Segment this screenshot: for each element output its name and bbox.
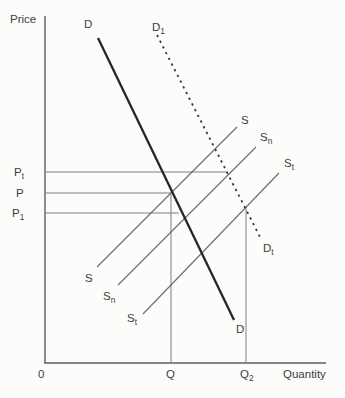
label-origin: 0 [38,368,44,380]
label-supply-sn-bottom: Sn [103,290,116,305]
label-price-p1: P1 [12,207,25,222]
label-price-pt: Pt [14,166,25,181]
label-quantity-q: Q [166,368,175,380]
economics-figure-page: PriceDD1SSnStPtPP1DtSSnStD0QQ2Quantity [0,0,345,398]
label-price-axis: Price [10,13,36,25]
supply-demand-diagram: PriceDD1SSnStPtPP1DtSSnStD0QQ2Quantity [0,0,345,398]
label-supply-s-bottom: S [85,272,93,284]
demand-curve-d1-dotted [157,35,260,237]
label-demand-d-bottom: D [236,323,244,335]
supply-curve-st [143,173,279,314]
label-demand-d-top: D [84,18,92,30]
label-supply-sn-top: Sn [260,131,273,146]
label-supply-s-top: S [241,114,249,126]
label-demand-d1-top: D1 [152,21,165,36]
label-quantity-axis: Quantity [283,368,326,380]
label-supply-st-top: St [284,157,295,172]
label-price-p: P [16,187,24,199]
supply-curve-s [97,127,237,267]
label-quantity-q2: Q2 [240,368,254,383]
demand-curve-d [98,38,234,320]
label-supply-st-bottom: St [127,312,138,327]
label-demand-dt-bottom: Dt [263,242,274,257]
supply-curve-sn [118,147,256,285]
